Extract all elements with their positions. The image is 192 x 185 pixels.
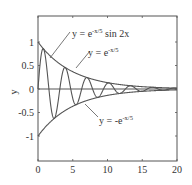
x-tick-label: 10 bbox=[103, 164, 113, 175]
x-tick-label: 15 bbox=[137, 164, 147, 175]
y-tick-label: 0.5 bbox=[22, 60, 35, 71]
chart: 0510152010.50-0.5-1 y = e-x/5 sin 2xy = … bbox=[0, 0, 192, 185]
annotations: y = e-x/5 sin 2xy = e-x/5y = -e-x/5 bbox=[50, 27, 133, 126]
y-axis-label: y bbox=[8, 90, 19, 95]
annotation-label: y = -e-x/5 bbox=[99, 114, 133, 126]
annotation-label: y = e-x/5 bbox=[88, 46, 119, 58]
y-tick-label: 0 bbox=[29, 84, 34, 95]
x-tick-label: 5 bbox=[70, 164, 75, 175]
y-tick-label: 1 bbox=[29, 37, 34, 48]
annotation-pointer bbox=[50, 32, 70, 58]
x-tick-label: 20 bbox=[172, 164, 182, 175]
annotation-pointer bbox=[85, 104, 98, 117]
annotation-label: y = e-x/5 sin 2x bbox=[72, 27, 129, 39]
y-tick-label: -0.5 bbox=[18, 107, 34, 118]
x-tick-label: 0 bbox=[36, 164, 41, 175]
y-tick-label: -1 bbox=[26, 131, 34, 142]
curve-exp-x-5-sin-2x- bbox=[38, 49, 177, 119]
